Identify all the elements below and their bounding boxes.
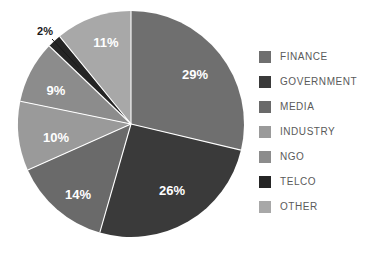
legend-swatch-icon bbox=[259, 201, 271, 213]
legend-swatch-icon bbox=[259, 126, 271, 138]
legend-item-label: OTHER bbox=[280, 201, 318, 212]
legend-item-label: NGO bbox=[280, 151, 304, 162]
legend-item-other[interactable]: OTHER bbox=[259, 194, 377, 219]
legend-swatch-icon bbox=[259, 76, 271, 88]
legend-item-telco[interactable]: TELCO bbox=[259, 169, 377, 194]
slice-value-label-media: 14% bbox=[65, 187, 91, 202]
legend-swatch-icon bbox=[259, 101, 271, 113]
slice-value-label-finance: 29% bbox=[182, 67, 208, 82]
legend-item-label: TELCO bbox=[280, 176, 316, 187]
legend-item-government[interactable]: GOVERNMENT bbox=[259, 69, 377, 94]
legend-item-finance[interactable]: FINANCE bbox=[259, 44, 377, 69]
legend-swatch-icon bbox=[259, 176, 271, 188]
chart-legend: FINANCEGOVERNMENTMEDIAINDUSTRYNGOTELCOOT… bbox=[259, 44, 377, 219]
pie-chart-figure: 29%26%14%10%9%2%11% FINANCEGOVERNMENTMED… bbox=[0, 0, 378, 254]
legend-swatch-icon bbox=[259, 151, 271, 163]
legend-swatch-icon bbox=[259, 51, 271, 63]
legend-item-label: GOVERNMENT bbox=[280, 76, 357, 87]
legend-item-label: MEDIA bbox=[280, 101, 314, 112]
legend-item-label: FINANCE bbox=[280, 51, 328, 62]
legend-item-ngo[interactable]: NGO bbox=[259, 144, 377, 169]
slice-value-label-ngo: 9% bbox=[47, 83, 66, 98]
slice-value-label-government: 26% bbox=[159, 183, 185, 198]
slice-value-label-industry: 10% bbox=[43, 130, 69, 145]
legend-item-industry[interactable]: INDUSTRY bbox=[259, 119, 377, 144]
legend-item-label: INDUSTRY bbox=[280, 126, 335, 137]
legend-item-media[interactable]: MEDIA bbox=[259, 94, 377, 119]
slice-value-label-telco: 2% bbox=[37, 25, 53, 37]
slice-value-label-other: 11% bbox=[93, 35, 119, 50]
